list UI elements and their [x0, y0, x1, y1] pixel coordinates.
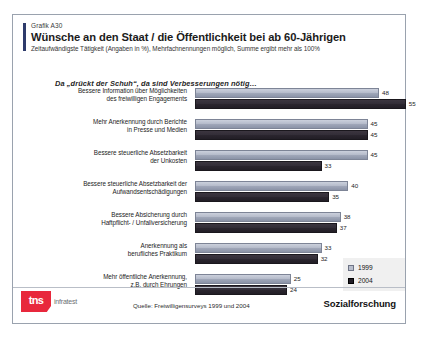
category-label-line: Bessere Absicherung durch	[35, 211, 187, 219]
bar-value-label: 25	[294, 274, 301, 284]
bar-group: Bessere Information über Möglichkeitende…	[13, 87, 424, 114]
category-label: Mehr Anerkennung durch Berichtein Presse…	[35, 118, 187, 134]
tns-logo-mark-icon: tns	[21, 291, 51, 312]
bar-value-label: 37	[340, 223, 347, 233]
bar-value-label: 48	[382, 88, 389, 98]
bar-1999	[195, 243, 322, 253]
bar-1999	[195, 119, 368, 129]
department-label: Sozialforschung	[324, 298, 396, 309]
category-label-line: der Unkosten	[35, 157, 187, 165]
bar-pair: 3837	[195, 211, 424, 238]
page-title: Wünsche an den Staat / die Öffentlichkei…	[31, 30, 395, 44]
bar-row: 35	[195, 192, 424, 202]
bar-row: 45	[195, 150, 424, 160]
category-label: Anerkennung alsberufliches Praktikum	[35, 242, 187, 258]
bar-row: 37	[195, 223, 424, 233]
bar-2004	[195, 192, 329, 202]
bar-pair: 4533	[195, 149, 424, 176]
chart-header: Grafik A30 Wünsche an den Staat / die Öf…	[23, 21, 395, 54]
bar-group: Bessere steuerliche Absetzbarkeit derAuf…	[13, 180, 424, 207]
bar-value-label: 55	[409, 99, 416, 109]
bar-group: Mehr Anerkennung durch Berichtein Presse…	[13, 118, 424, 145]
bar-row: 38	[195, 212, 424, 222]
chart-footer: tns infratest Quelle: Freiwilligensurvey…	[13, 287, 405, 323]
bar-1999	[195, 181, 348, 191]
bar-value-label: 38	[344, 212, 351, 222]
category-label-line: Mehr öffentliche Anerkennung,	[35, 273, 187, 281]
chart-subtitle: Zeitaufwändigste Tätigkeit (Angaben in %…	[31, 44, 395, 54]
legend-swatch-1999-icon	[348, 265, 354, 271]
category-label: Bessere steuerliche Absetzbarkeit derAuf…	[35, 180, 187, 196]
bar-pair: 4035	[195, 180, 424, 207]
bar-row: 45	[195, 130, 424, 140]
bar-2004	[195, 161, 322, 171]
bar-1999	[195, 88, 379, 98]
bar-pair: 4855	[195, 87, 424, 114]
category-label-line: Aufwandsentschädigungen	[35, 188, 187, 196]
legend-item: 2004	[348, 274, 401, 287]
bar-2004	[195, 99, 406, 109]
category-label: Bessere Absicherung durchHaftpflicht- / …	[35, 211, 187, 227]
tns-infratest-logo: tns infratest	[21, 291, 77, 312]
legend-swatch-2004-icon	[348, 278, 354, 284]
bar-row: 33	[195, 161, 424, 171]
category-label-line: Haftpflicht- / Unfallversicherung	[35, 219, 187, 227]
category-label-line: berufliches Praktikum	[35, 250, 187, 258]
bar-1999	[195, 150, 368, 160]
bar-group: Bessere Absicherung durchHaftpflicht- / …	[13, 211, 424, 238]
bar-value-label: 33	[325, 243, 332, 253]
bar-value-label: 45	[371, 119, 378, 129]
bar-value-label: 40	[351, 181, 358, 191]
bar-1999	[195, 274, 291, 284]
logo-wordmark: infratest	[54, 298, 77, 305]
bar-1999	[195, 212, 341, 222]
bar-value-label: 33	[325, 161, 332, 171]
chart-kicker: Grafik A30	[31, 21, 395, 30]
category-label-line: Mehr Anerkennung durch Berichte	[35, 118, 187, 126]
bar-2004	[195, 223, 337, 233]
category-label: Bessere Information über Möglichkeitende…	[35, 87, 187, 103]
source-note: Quelle: Freiwilligensurveys 1999 und 200…	[133, 302, 250, 309]
header-text-block: Grafik A30 Wünsche an den Staat / die Öf…	[31, 21, 395, 54]
chart-page: Grafik A30 Wünsche an den Staat / die Öf…	[12, 14, 406, 324]
category-label: Bessere steuerliche Absetzbarkeitder Unk…	[35, 149, 187, 165]
bar-row: 33	[195, 243, 424, 253]
legend-item: 1999	[348, 261, 401, 274]
bar-pair: 4545	[195, 118, 424, 145]
bar-value-label: 45	[371, 150, 378, 160]
bar-2004	[195, 130, 368, 140]
bar-row: 45	[195, 119, 424, 129]
category-label-line: des freiwilligen Engagements	[35, 95, 187, 103]
category-label-line: Bessere steuerliche Absetzbarkeit	[35, 149, 187, 157]
bar-row: 40	[195, 181, 424, 191]
legend-label-1999: 1999	[358, 264, 373, 271]
logo-mark-text: tns	[29, 295, 44, 308]
legend-label-2004: 2004	[358, 277, 373, 284]
category-label-line: Bessere Information über Möglichkeiten	[35, 87, 187, 95]
bar-row: 55	[195, 99, 424, 109]
header-accent-bar	[23, 23, 26, 51]
bar-value-label: 32	[321, 254, 328, 264]
category-label-line: in Presse und Medien	[35, 126, 187, 134]
bar-2004	[195, 254, 318, 264]
bar-value-label: 45	[371, 130, 378, 140]
bar-row: 48	[195, 88, 424, 98]
category-label-line: Anerkennung als	[35, 242, 187, 250]
bar-value-label: 35	[332, 192, 339, 202]
category-label-line: Bessere steuerliche Absetzbarkeit der	[35, 180, 187, 188]
footer-divider	[13, 287, 405, 288]
bar-group: Bessere steuerliche Absetzbarkeitder Unk…	[13, 149, 424, 176]
